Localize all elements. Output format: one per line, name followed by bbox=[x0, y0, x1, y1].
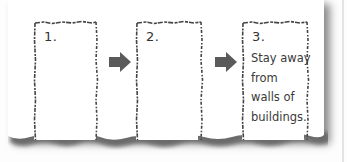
diagram-canvas: 1. 2. 3. Stay away from walls of buildin… bbox=[0, 0, 347, 162]
step-text: Stay away from walls of buildings. bbox=[251, 49, 311, 127]
arrow-right-icon bbox=[215, 52, 237, 72]
step-number: 3. bbox=[252, 29, 265, 44]
sketch-border bbox=[134, 20, 202, 142]
step-box-3: 3. Stay away from walls of buildings. bbox=[242, 22, 304, 140]
step-number: 2. bbox=[146, 29, 159, 44]
sketch-border bbox=[32, 20, 100, 142]
step-number: 1. bbox=[44, 29, 57, 44]
page-edge-rule bbox=[342, 0, 344, 162]
step-box-2: 2. bbox=[136, 22, 198, 140]
arrow-right-icon bbox=[109, 52, 131, 72]
step-box-1: 1. bbox=[34, 22, 96, 140]
